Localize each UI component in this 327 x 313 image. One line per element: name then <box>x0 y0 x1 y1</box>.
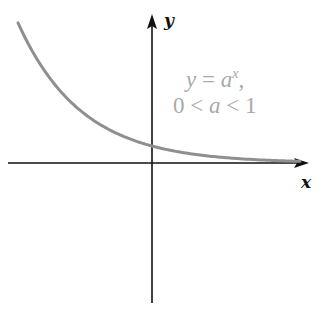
x-axis-label: x <box>300 172 312 192</box>
function-equation: y = ax, <box>184 66 244 92</box>
y-axis-label: y <box>163 10 175 30</box>
exponential-curve <box>18 23 300 161</box>
exponential-graph: y x y = ax, 0 < a < 1 <box>0 0 327 313</box>
parameter-condition: 0 < a < 1 <box>173 93 256 118</box>
